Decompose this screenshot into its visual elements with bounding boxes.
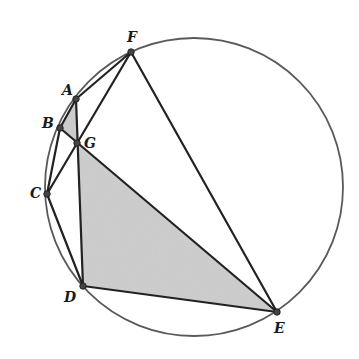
label-F: F <box>126 29 138 45</box>
point-F <box>128 49 134 55</box>
segment-FA <box>76 52 131 99</box>
point-E <box>274 309 280 315</box>
label-B: B <box>41 115 54 131</box>
cyclic-hexagon-diagram: ABCDEFG <box>0 0 359 359</box>
label-G: G <box>84 135 96 151</box>
shaded-regions <box>60 99 277 312</box>
label-A: A <box>60 82 73 98</box>
segment-CD <box>47 194 83 286</box>
point-C <box>44 191 50 197</box>
label-E: E <box>273 320 285 336</box>
point-D <box>80 283 86 289</box>
point-G <box>74 140 80 146</box>
point-B <box>57 125 63 131</box>
label-C: C <box>30 185 41 201</box>
point-A <box>73 96 79 102</box>
label-D: D <box>63 289 77 305</box>
